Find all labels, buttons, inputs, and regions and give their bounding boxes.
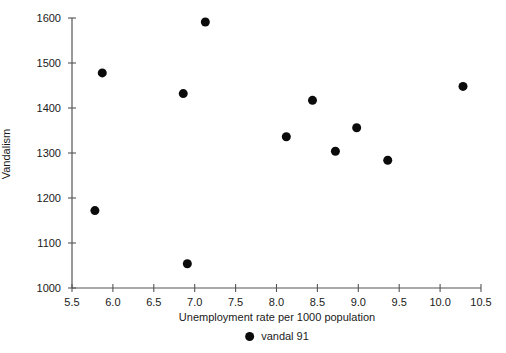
x-axis-tick-label: 9.5 [392, 296, 407, 308]
y-axis-tick-label: 1200 [0, 192, 61, 204]
data-point [90, 206, 99, 215]
data-point [331, 147, 340, 156]
x-axis-tick-label: 9.0 [351, 296, 366, 308]
legend-marker-icon [245, 332, 254, 341]
y-axis-tick-label: 1400 [0, 102, 61, 114]
data-point [183, 259, 192, 268]
y-axis-tick-label: 1600 [0, 12, 61, 24]
x-axis-tick-label: 5.5 [64, 296, 79, 308]
data-point [201, 18, 210, 27]
data-point [459, 82, 468, 91]
y-axis-title: Vandalism [0, 129, 12, 180]
scatter-chart: 1000110012001300140015001600 5.56.06.57.… [0, 0, 506, 353]
x-axis-tick-label: 8.0 [269, 296, 284, 308]
x-axis-tick-label: 7.5 [228, 296, 243, 308]
x-axis-tick-label: 6.5 [146, 296, 161, 308]
legend-label: vandal 91 [261, 330, 309, 342]
x-axis-tick-label: 6.0 [105, 296, 120, 308]
y-axis-tick-label: 1100 [0, 237, 61, 249]
x-axis-tick-label: 8.5 [310, 296, 325, 308]
y-axis-tick-label: 1000 [0, 282, 61, 294]
axis-lines [72, 18, 481, 288]
data-point [308, 96, 317, 105]
data-point-group [90, 18, 467, 269]
data-point [352, 123, 361, 132]
data-point [98, 68, 107, 77]
data-point [383, 156, 392, 165]
chart-legend: vandal 91 [245, 330, 309, 342]
y-axis-tick-label: 1500 [0, 57, 61, 69]
x-axis-tick-label: 10.5 [470, 296, 491, 308]
data-point [282, 132, 291, 141]
x-axis-tick-label: 10.0 [429, 296, 450, 308]
data-point [179, 89, 188, 98]
x-axis-tick-label: 7.0 [187, 296, 202, 308]
x-axis-title: Unemployment rate per 1000 population [179, 311, 375, 323]
